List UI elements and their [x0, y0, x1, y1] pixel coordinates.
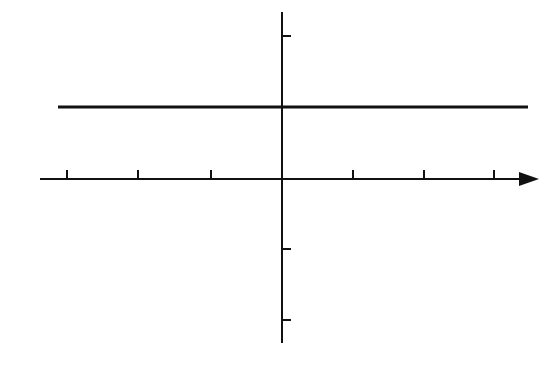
chart	[0, 0, 559, 371]
x-axis-arrowhead-icon	[519, 172, 539, 186]
x-axis-ticks	[67, 170, 494, 179]
